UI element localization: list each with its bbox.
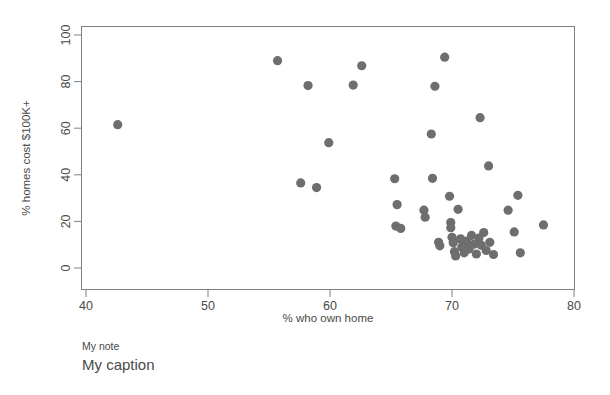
y-tick-label: 60 [59, 121, 73, 135]
data-point [516, 248, 525, 257]
data-point [393, 200, 402, 209]
data-point [445, 192, 454, 201]
x-tick-label: 50 [201, 299, 215, 313]
data-point [296, 178, 305, 187]
data-point [349, 80, 358, 89]
x-axis-ticks: 4050607080 [79, 290, 581, 314]
caption-text: My caption [82, 356, 155, 373]
data-point [479, 228, 488, 237]
data-point [427, 129, 436, 138]
x-tick-label: 40 [79, 299, 93, 313]
data-point [451, 251, 460, 260]
y-tick-label: 20 [59, 214, 73, 228]
y-axis-title: % homes cost $100K+ [20, 100, 32, 216]
plot-canvas: 020406080100 4050607080 % who own home %… [0, 0, 610, 330]
scatter-plot-figure: 020406080100 4050607080 % who own home %… [0, 0, 610, 395]
note-text: My note [82, 340, 119, 352]
data-point [390, 174, 399, 183]
data-point [273, 56, 282, 65]
data-point [113, 120, 122, 129]
data-point [489, 250, 498, 259]
data-point [475, 113, 484, 122]
x-tick-label: 80 [567, 299, 581, 313]
data-point [510, 227, 519, 236]
data-points-layer [113, 53, 548, 261]
y-tick-label: 0 [59, 264, 73, 271]
y-tick-label: 40 [59, 168, 73, 182]
data-point [454, 205, 463, 214]
data-point [312, 183, 321, 192]
data-point [421, 213, 430, 222]
data-point [485, 238, 494, 247]
y-tick-label: 80 [59, 75, 73, 89]
data-point [484, 161, 493, 170]
data-point [446, 223, 455, 232]
y-tick-label: 100 [59, 25, 73, 46]
data-point [303, 81, 312, 90]
data-point [435, 241, 444, 250]
data-point [440, 53, 449, 62]
data-point [504, 206, 513, 215]
x-tick-label: 60 [323, 299, 337, 313]
data-point [357, 61, 366, 70]
data-point [430, 82, 439, 91]
y-axis-ticks: 020406080100 [59, 25, 82, 272]
data-point [539, 220, 548, 229]
data-point [428, 174, 437, 183]
data-point [324, 138, 333, 147]
plot-frame [82, 27, 575, 290]
data-point [472, 249, 481, 258]
data-point [396, 224, 405, 233]
x-tick-label: 70 [445, 299, 459, 313]
data-point [513, 191, 522, 200]
x-axis-title: % who own home [283, 312, 374, 324]
